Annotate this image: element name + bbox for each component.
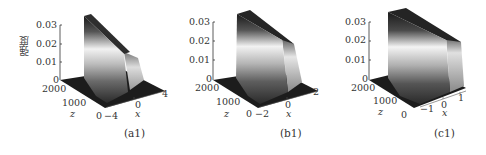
ytick-label: 0.01 xyxy=(345,55,366,65)
panel-caption: (c1) xyxy=(434,127,455,139)
ztick-label: 0 xyxy=(96,111,102,121)
surface-plot-b1 xyxy=(160,0,330,155)
z-axis-label: z xyxy=(378,107,383,117)
ytick-label: 0.01 xyxy=(36,57,57,67)
panel-caption: (a1) xyxy=(124,127,145,139)
x-axis-label: x xyxy=(135,109,140,119)
ztick-label: 2000 xyxy=(42,84,66,94)
ytick-label: 0.01 xyxy=(189,55,210,65)
surface-plot-c1 xyxy=(316,0,486,155)
z-axis-label: z xyxy=(70,109,75,119)
ytick-label: 0.03 xyxy=(189,17,210,27)
ytick-label: 0.03 xyxy=(345,17,366,27)
z-axis-label: z xyxy=(224,109,229,119)
ztick-label: 0 xyxy=(401,110,407,120)
ytick-label: 0.02 xyxy=(189,36,210,46)
xtick-label: −1 xyxy=(420,104,434,114)
ytick-label: 0.02 xyxy=(36,39,57,49)
panel-caption: (b1) xyxy=(280,127,302,139)
ztick-label: 2000 xyxy=(351,83,375,93)
ytick-label: 0.02 xyxy=(345,35,366,45)
ztick-label: 1000 xyxy=(62,98,86,108)
xtick-label: −4 xyxy=(104,111,118,121)
panel-b1: 0.03 0.02 0.01 0 2000 1000 z 0 −2 0 x 2 … xyxy=(160,0,330,155)
panel-a1: 0.03 0.02 0.01 0 2000 1000 z 0 −4 0 x 4 … xyxy=(0,0,170,155)
xtick-label: −2 xyxy=(255,109,269,119)
x-axis-label: x xyxy=(442,108,447,118)
x-axis-label: x xyxy=(286,109,291,119)
ztick-label: 1000 xyxy=(216,97,240,107)
ztick-label: 2000 xyxy=(195,83,219,93)
ytick-label: 0.03 xyxy=(36,20,57,30)
ztick-label: 1000 xyxy=(373,96,397,106)
ztick-label: 0 xyxy=(246,109,252,119)
panel-c1: 0.03 0.02 0.01 0 2000 1000 z 0 −1 0 x 1 … xyxy=(316,0,486,155)
xtick-label: 1 xyxy=(458,93,464,103)
